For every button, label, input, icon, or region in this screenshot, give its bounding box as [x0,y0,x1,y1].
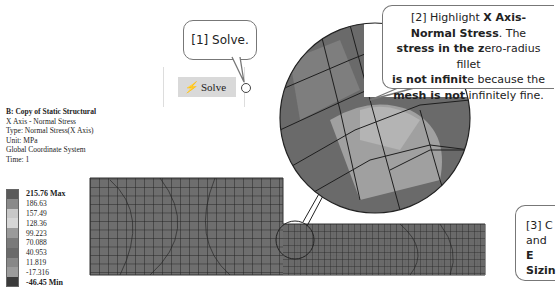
callout-2-text: [2] Highlight [411,11,483,24]
callout-2-bold: is not infinit [392,73,467,86]
callout-3-bold: E [526,249,534,262]
callout-step-2: [2] Highlight X Axis- Normal Stress. The… [382,5,554,89]
callout-2-bold: stress in the z [397,42,485,55]
callout-step-3: [3] C and E Sizin [515,205,555,281]
callout-2-text: . The [499,27,526,40]
callout-3-bold: Sizin [526,264,556,277]
callout-3-text: [3] C [526,219,553,232]
callout-2-text: infinitely fine. [465,89,544,102]
solve-lightning-icon: ⚡ [184,81,198,94]
callout-2-bold: mesh is not [393,89,465,102]
solve-label: Solve [201,81,226,93]
callout-2-bold: Normal Stress [411,27,499,40]
callout-step-1: [1] Solve. [183,20,257,60]
callout-2-bold: X Axis- [483,11,526,24]
callout-3-text: and [526,234,547,247]
callout-2-text: e because the [467,73,545,86]
solve-button[interactable]: ⚡ Solve [178,77,236,97]
callout-anchor-marker [241,83,251,93]
